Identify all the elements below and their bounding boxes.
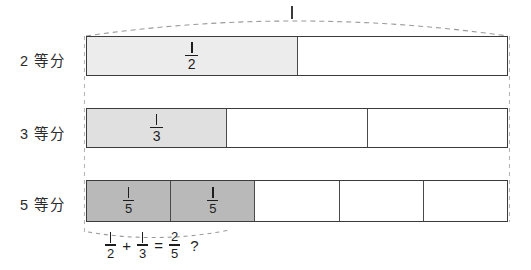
one-stroke-glyph (191, 42, 193, 53)
row-label-3-equal-parts: 3 等分 (20, 127, 65, 142)
row-label-2-equal-parts: 2 等分 (20, 54, 65, 69)
one-stroke-glyph (142, 232, 144, 243)
cell-5-3 (255, 181, 339, 221)
whole-unit-label (291, 5, 293, 19)
one-stroke-glyph (156, 114, 158, 125)
bar-5-equal-parts: 5 5 (86, 180, 508, 222)
fraction-denominator: 5 (122, 201, 135, 216)
fraction-numerator (153, 112, 161, 126)
one-stroke-glyph (291, 6, 293, 19)
top-arc (86, 21, 508, 36)
fraction-one-half: 2 (185, 40, 199, 71)
fraction-denominator: 3 (136, 246, 149, 261)
fraction-numerator (209, 186, 217, 199)
plus-operator: + (121, 238, 132, 253)
bar-2-equal-parts: 2 (86, 36, 508, 76)
equation-term-one-third: 3 (136, 231, 149, 260)
question-mark: ? (185, 238, 199, 253)
fraction-one-fifth-a: 5 (122, 186, 135, 215)
cell-2-1: 2 (87, 37, 298, 75)
fraction-denominator: 5 (206, 201, 219, 216)
fraction-numerator: 2 (168, 231, 181, 244)
equals-operator: = (153, 238, 164, 253)
bar-3-equal-parts: 3 (86, 108, 508, 148)
cell-5-1: 5 (87, 181, 171, 221)
cell-5-5 (424, 181, 507, 221)
equation-term-one-half: 2 (104, 231, 117, 260)
fraction-numerator (188, 40, 196, 54)
cell-5-4 (340, 181, 424, 221)
equation-result-two-fifths: 2 5 (168, 231, 181, 260)
fraction-denominator: 3 (150, 128, 164, 144)
one-stroke-glyph (110, 232, 112, 243)
cell-5-2: 5 (171, 181, 255, 221)
fraction-numerator (107, 231, 115, 244)
fraction-denominator: 5 (168, 246, 181, 261)
fraction-numerator (139, 231, 147, 244)
fraction-one-third: 3 (150, 112, 164, 143)
row-label-5-equal-parts: 5 等分 (20, 198, 65, 213)
fraction-denominator: 2 (185, 56, 199, 72)
fraction-comparison-figure: 2 等分 2 3 等分 3 5 等分 5 (0, 0, 531, 270)
one-stroke-glyph (212, 187, 214, 198)
cell-2-2 (298, 37, 508, 75)
equation-row: 2 + 3 = 2 5 ? (104, 231, 200, 260)
fraction-denominator: 2 (104, 246, 117, 261)
cell-3-1: 3 (87, 109, 227, 147)
fraction-numerator (125, 186, 133, 199)
one-stroke-glyph (128, 187, 130, 198)
fraction-one-fifth-b: 5 (206, 186, 219, 215)
cell-3-3 (368, 109, 507, 147)
cell-3-2 (227, 109, 367, 147)
